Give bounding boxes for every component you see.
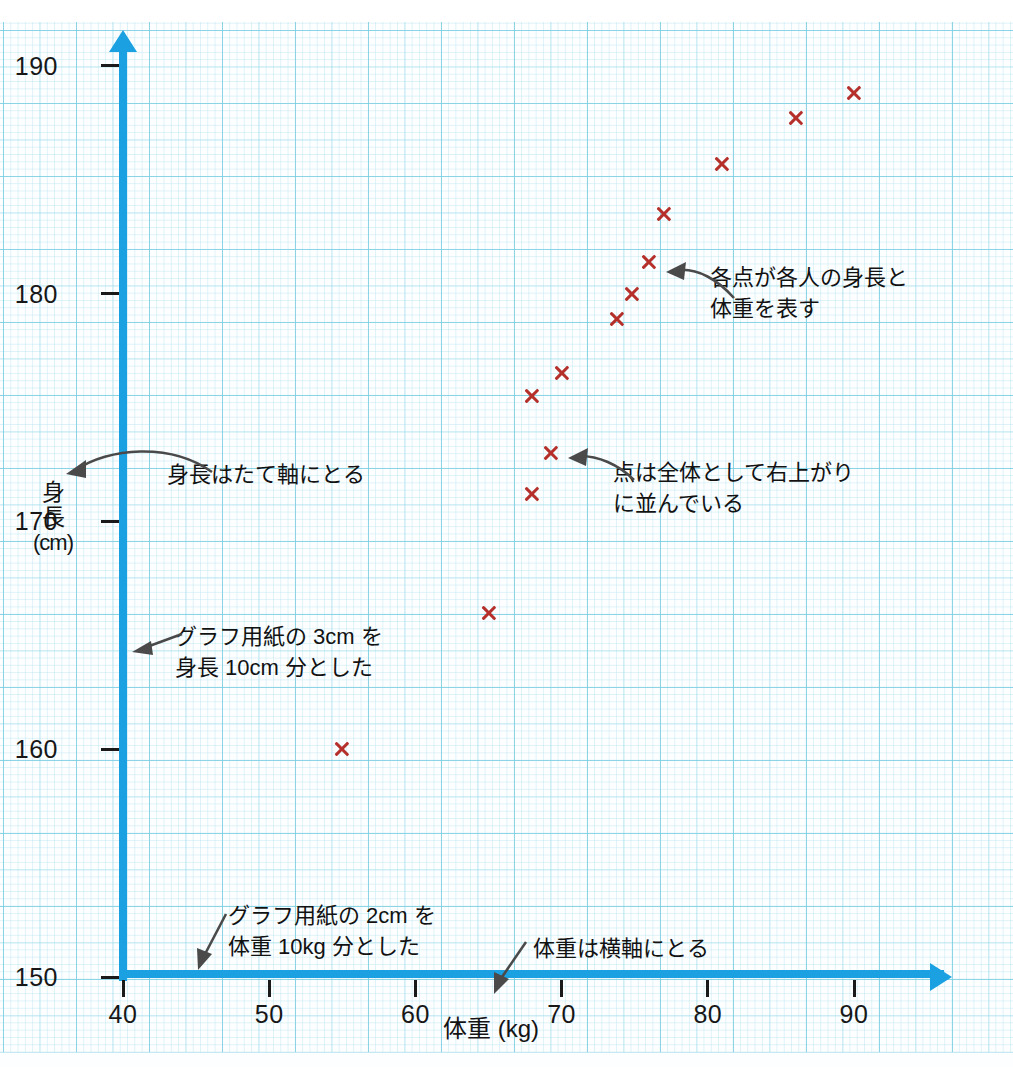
paper-bottom-margin (0, 1052, 1013, 1067)
y-axis-title-line-2: 長 (22, 505, 84, 530)
annotation-weight-scale: グラフ用紙の 2cm を 体重 10kg 分とした (228, 900, 436, 962)
data-point-marker (521, 483, 543, 505)
annotation-weight-scale-arrow (182, 908, 242, 988)
data-point-marker (540, 442, 562, 464)
graph-paper-background (0, 22, 1013, 1062)
data-point-marker (521, 385, 543, 407)
data-point-marker (331, 738, 353, 760)
x-tick-mark (706, 980, 709, 997)
y-tick-mark (101, 292, 119, 295)
x-tick-mark (560, 980, 563, 997)
data-point-marker (621, 283, 643, 305)
annotation-trend: 点は全体として右上がり に並んでいる (613, 457, 854, 519)
annotation-trend-arrow (562, 448, 642, 498)
annotation-weight-axis: 体重は横軸にとる (533, 933, 709, 964)
x-tick-label: 40 (109, 1000, 138, 1029)
x-tick-label: 80 (693, 1000, 722, 1029)
annotation-height-scale: グラフ用紙の 3cm を 身長 10cm 分とした (175, 621, 383, 683)
y-tick-label: 150 (15, 963, 58, 992)
y-axis-arrowhead (109, 30, 137, 52)
y-axis-title-unit: (cm) (22, 530, 84, 555)
y-tick-label: 180 (15, 279, 58, 308)
x-tick-label: 50 (255, 1000, 284, 1029)
data-point-marker (551, 362, 573, 384)
data-point-marker (785, 107, 807, 129)
y-tick-mark (101, 520, 119, 523)
y-tick-mark (101, 64, 119, 67)
x-tick-label: 90 (840, 1000, 869, 1029)
paper-top-margin (0, 0, 1013, 22)
data-point-marker (843, 82, 865, 104)
data-point-marker (478, 602, 500, 624)
x-tick-mark (268, 980, 271, 997)
x-tick-label: 70 (547, 1000, 576, 1029)
annotation-weight-axis-arrow (470, 938, 540, 1008)
data-point-marker (653, 203, 675, 225)
annotation-height-scale-arrow (120, 625, 190, 665)
x-axis-title: 体重 (kg) (443, 1009, 539, 1044)
y-axis-line (119, 48, 127, 981)
y-tick-mark (101, 976, 119, 979)
data-point-marker (638, 251, 660, 273)
x-tick-mark (853, 980, 856, 997)
x-tick-mark (122, 980, 125, 997)
y-tick-mark (101, 748, 119, 751)
data-point-marker (711, 153, 733, 175)
x-tick-label: 60 (401, 1000, 430, 1029)
scatter-plot-figure: 190180170160150 405060708090 身 長 (cm) 体重… (0, 0, 1013, 1067)
annotation-points-meaning-arrow (660, 258, 740, 318)
x-axis-arrowhead (930, 963, 952, 991)
y-tick-label: 160 (15, 735, 58, 764)
y-tick-label: 190 (15, 51, 58, 80)
data-point-marker (606, 308, 628, 330)
x-tick-mark (414, 980, 417, 997)
annotation-height-axis-arrow (60, 440, 360, 500)
